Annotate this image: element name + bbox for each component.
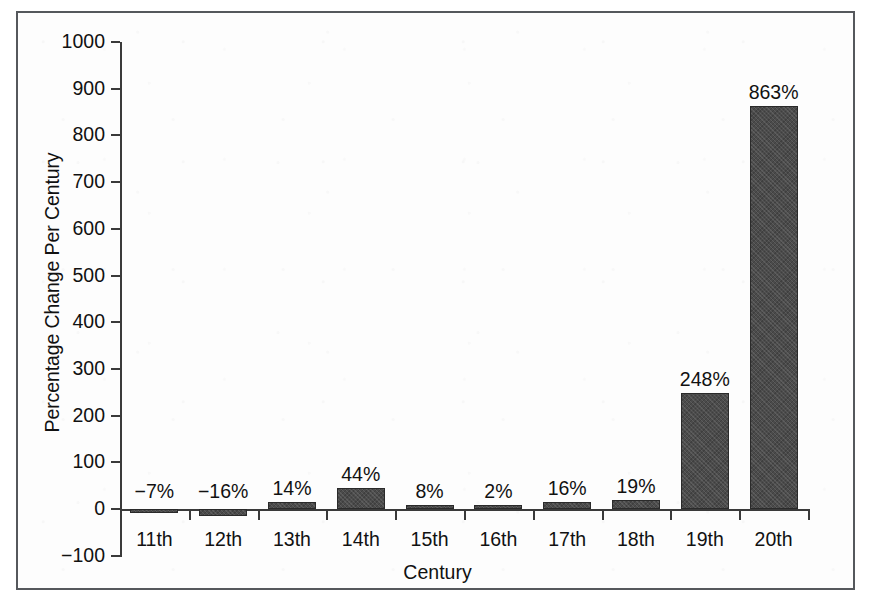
x-category-label: 18th — [602, 528, 671, 551]
y-tick-label: 500 — [72, 264, 105, 287]
bar — [199, 509, 247, 516]
bar — [337, 488, 385, 509]
y-tick-label: 400 — [72, 310, 105, 333]
y-tick-label: 100 — [72, 450, 105, 473]
y-tick-label: 1000 — [62, 30, 105, 53]
x-tick — [533, 509, 535, 520]
x-category-label: 12th — [189, 528, 258, 551]
y-tick: 0 — [111, 508, 120, 510]
x-category-label: 14th — [326, 528, 395, 551]
y-tick-label: −100 — [61, 544, 105, 567]
x-tick — [739, 509, 741, 520]
x-tick — [120, 509, 122, 520]
x-tick — [808, 509, 810, 520]
y-axis-title: Percentage Change Per Century — [41, 113, 64, 473]
x-tick — [189, 509, 191, 520]
y-tick: 600 — [111, 228, 120, 230]
y-tick: 300 — [111, 368, 120, 370]
figure-frame: Percentage Change Per Century Century 10… — [16, 11, 855, 590]
plot-area: 10009008007006005004003002001000−100 −7%… — [120, 42, 808, 587]
x-category-label: 11th — [120, 528, 189, 551]
y-tick-label: 900 — [72, 77, 105, 100]
x-category-label: 16th — [464, 528, 533, 551]
bar — [406, 505, 454, 509]
bar — [750, 106, 798, 509]
bar — [612, 500, 660, 509]
y-tick: 200 — [111, 415, 120, 417]
bar-value-label: 863% — [729, 81, 818, 104]
bar — [681, 393, 729, 509]
x-tick — [464, 509, 466, 520]
y-tick: 800 — [111, 134, 120, 136]
bar-chart: Percentage Change Per Century Century 10… — [18, 13, 853, 588]
y-tick-label: 700 — [72, 170, 105, 193]
bar — [474, 505, 522, 509]
y-tick: −100 — [111, 555, 120, 557]
x-tick — [258, 509, 260, 520]
y-tick: 100 — [111, 461, 120, 463]
y-tick: 700 — [111, 181, 120, 183]
x-category-label: 19th — [670, 528, 739, 551]
y-tick-label: 0 — [94, 497, 105, 520]
x-tick — [670, 509, 672, 520]
x-category-label: 13th — [258, 528, 327, 551]
x-tick — [602, 509, 604, 520]
y-tick: 900 — [111, 88, 120, 90]
y-tick-label: 200 — [72, 404, 105, 427]
bar — [268, 502, 316, 509]
bar-value-label: 248% — [660, 368, 749, 391]
x-category-label: 20th — [739, 528, 808, 551]
y-tick-label: 300 — [72, 357, 105, 380]
y-tick-label: 600 — [72, 217, 105, 240]
y-tick: 400 — [111, 321, 120, 323]
x-tick — [326, 509, 328, 520]
bar — [543, 502, 591, 509]
x-category-label: 17th — [533, 528, 602, 551]
x-tick — [395, 509, 397, 520]
y-tick-label: 800 — [72, 123, 105, 146]
x-category-label: 15th — [395, 528, 464, 551]
y-tick: 1000 — [111, 41, 120, 43]
y-tick: 500 — [111, 275, 120, 277]
bar-value-label: 19% — [592, 475, 681, 498]
bar — [130, 509, 178, 513]
